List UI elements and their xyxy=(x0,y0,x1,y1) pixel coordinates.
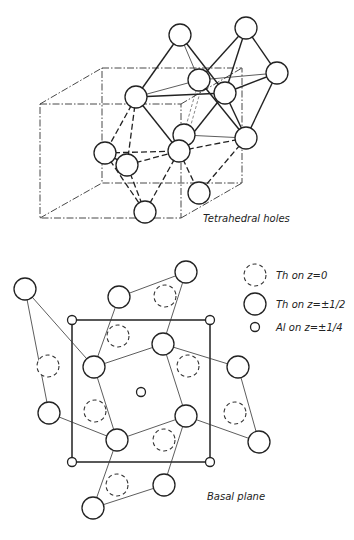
legend-al-label: Al on z=±1/4 xyxy=(275,322,343,333)
legend-th-half-label: Th on z=±1/2 xyxy=(276,299,345,310)
legend-dashed-circle-icon xyxy=(244,264,266,286)
th-z0-atom xyxy=(154,285,176,307)
th-half-atom xyxy=(83,356,105,378)
legend-th-z0-label: Th on z=0 xyxy=(276,270,327,281)
th-half-atom xyxy=(227,356,249,378)
legend-small-circle-icon xyxy=(251,323,260,332)
atom xyxy=(125,86,147,108)
th-z0-atom xyxy=(107,325,129,347)
atom xyxy=(168,140,190,162)
atom xyxy=(134,201,156,223)
atom xyxy=(169,24,191,46)
th-half-atom xyxy=(14,278,36,300)
th-half-atom xyxy=(153,474,175,496)
al-atoms xyxy=(68,316,215,467)
tetrahedral-holes-panel: Tetrahedral holes xyxy=(40,17,290,224)
atom xyxy=(94,142,116,164)
th-half-atom xyxy=(38,402,60,424)
th-half-atom xyxy=(175,405,197,427)
th-z0-atom xyxy=(224,402,246,424)
al-atom xyxy=(68,316,77,325)
atom xyxy=(188,182,210,204)
th-z0-atom xyxy=(84,400,106,422)
th-z0-atom xyxy=(37,355,59,377)
legend: Th on z=0 Th on z=±1/2 Al on z=±1/4 xyxy=(244,264,345,333)
tetrahedral-holes-label: Tetrahedral holes xyxy=(203,213,290,224)
al-atom xyxy=(137,388,146,397)
al-atom xyxy=(206,316,215,325)
crystal-structure-figure: Tetrahedral holes xyxy=(0,0,354,540)
th-half-atom xyxy=(106,429,128,451)
atom xyxy=(266,62,288,84)
atom xyxy=(214,82,236,104)
th-z0-atom xyxy=(106,474,128,496)
atom xyxy=(116,154,138,176)
al-atom xyxy=(68,458,77,467)
basal-plane-panel: Th on z=0 Th on z=±1/2 Al on z=±1/4 Basa… xyxy=(14,261,345,519)
th-half-atom xyxy=(175,261,197,283)
al-atom xyxy=(206,458,215,467)
th-half-atom xyxy=(82,497,104,519)
th-z0-atom xyxy=(177,355,199,377)
atom xyxy=(188,69,210,91)
atom xyxy=(235,127,257,149)
th-half-atom xyxy=(152,333,174,355)
basal-plane-label: Basal plane xyxy=(207,491,265,502)
th-half-atom xyxy=(248,431,270,453)
th-half-atom xyxy=(108,286,130,308)
th-z0-atom xyxy=(153,429,175,451)
legend-large-circle-icon xyxy=(244,293,266,315)
atom xyxy=(235,17,257,39)
